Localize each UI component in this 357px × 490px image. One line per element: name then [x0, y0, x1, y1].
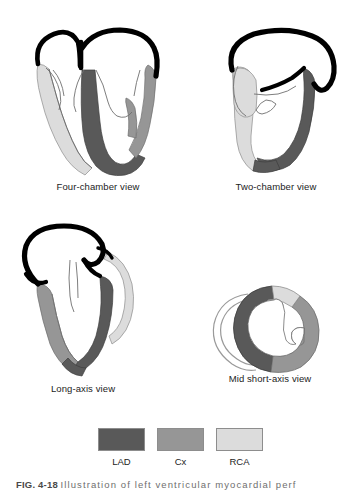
two-chamber-rca-basal-segment: [233, 68, 257, 117]
four-chamber-chordae: [134, 70, 140, 96]
four-chamber-outer-outline: [37, 32, 80, 66]
panel-four-chamber-view: Four-chamber view: [22, 18, 174, 178]
legend-item-cx: Cx: [157, 428, 204, 467]
figure-number: FIG. 4-18: [16, 479, 58, 490]
legend-item-lad: LAD: [98, 428, 145, 467]
long-axis-outer-outline: [25, 226, 104, 284]
long-axis-valve-leaflets: [69, 260, 74, 312]
legend-swatch-cx: [157, 428, 204, 451]
figure-caption: FIG. 4-18 Illustration of left ventricul…: [16, 479, 343, 490]
panel-two-chamber-view: Two-chamber view: [210, 22, 342, 178]
legend-label-cx: Cx: [157, 456, 204, 467]
legend-label-lad: LAD: [98, 456, 145, 467]
two-chamber-apical-band: [253, 160, 280, 173]
legend-label-rca: RCA: [216, 456, 263, 467]
four-chamber-heart-illustration: [22, 18, 174, 178]
long-axis-valve-leaflet-secondary: [76, 262, 78, 298]
four-chamber-cx-apical-wedge: [126, 98, 137, 138]
two-chamber-endocardial-border: [256, 100, 276, 114]
coronary-territory-legend: LAD Cx RCA: [98, 428, 263, 467]
panel-short-axis-view: Mid short-axis view: [202, 280, 338, 388]
legend-swatch-lad: [98, 428, 145, 451]
figure-sheet: Four-chamber view Two-chamber view: [0, 0, 357, 490]
legend-item-rca: RCA: [216, 428, 263, 467]
long-axis-cx-territory: [37, 284, 78, 371]
four-chamber-mitral-leaflet-right: [96, 70, 132, 117]
panel-two-chamber-label: Two-chamber view: [210, 181, 342, 193]
two-chamber-heart-illustration: [210, 22, 342, 178]
short-axis-heart-illustration: [202, 280, 338, 388]
panel-long-axis-label: Long-axis view: [12, 383, 154, 395]
legend-swatch-rca: [216, 428, 263, 451]
panel-four-chamber-label: Four-chamber view: [22, 181, 174, 193]
figure-caption-text: Illustration of left ventricular myocard…: [61, 479, 297, 490]
two-chamber-base-outline: [262, 68, 304, 90]
long-axis-heart-illustration: [12, 218, 154, 380]
panel-short-axis-label: Mid short-axis view: [202, 373, 338, 385]
panel-long-axis-view: Long-axis view: [12, 218, 154, 380]
